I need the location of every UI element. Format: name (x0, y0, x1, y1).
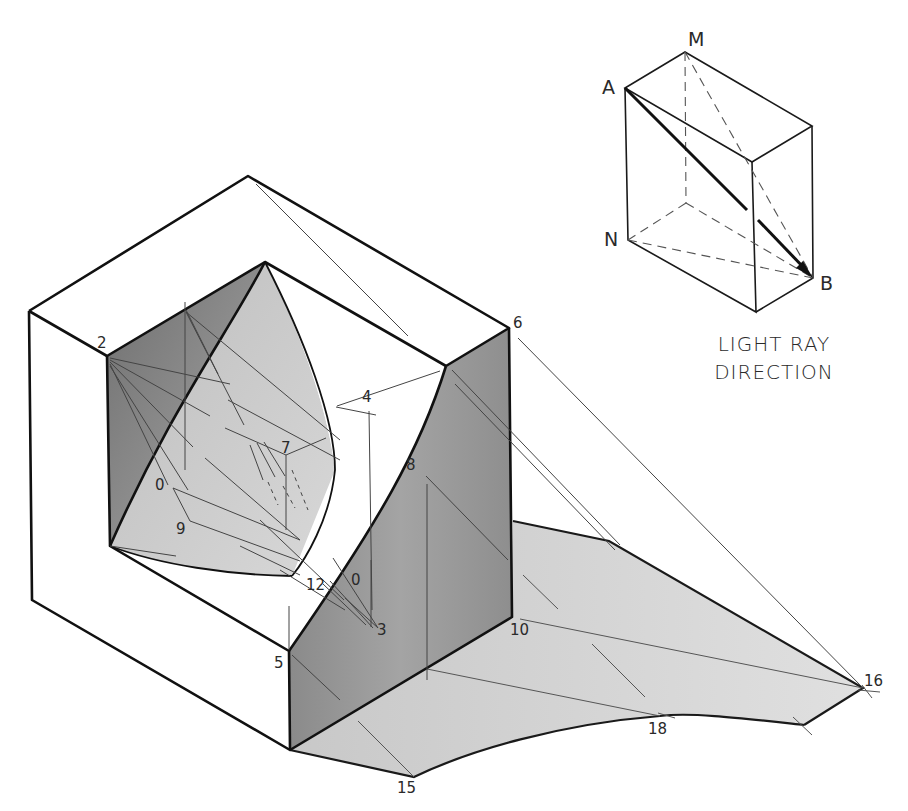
caption-line-1: LIGHT RAY (660, 330, 888, 358)
label-4: 4 (362, 388, 372, 406)
label-16: 16 (864, 672, 883, 690)
technical-drawing: 2 6 4 7 8 0 9 12 0 3 5 10 15 18 16 (0, 0, 908, 811)
light-ray-arrow (625, 88, 813, 278)
label-7: 7 (281, 439, 291, 457)
drawing-canvas: 2 6 4 7 8 0 9 12 0 3 5 10 15 18 16 (0, 0, 908, 811)
label-b: B (820, 272, 833, 294)
label-10: 10 (510, 621, 529, 639)
label-0-right: 0 (351, 571, 361, 589)
label-15: 15 (397, 779, 416, 797)
label-3: 3 (377, 621, 387, 639)
label-12: 12 (306, 576, 325, 594)
label-8: 8 (406, 456, 416, 474)
light-ray-box: A M N B (602, 28, 833, 312)
label-2: 2 (97, 334, 107, 352)
label-n: N (604, 228, 618, 250)
label-6: 6 (513, 314, 523, 332)
caption-line-2: DIRECTION (660, 358, 888, 386)
label-9: 9 (176, 520, 186, 538)
label-m: M (688, 28, 704, 50)
label-a: A (602, 76, 615, 98)
label-18: 18 (648, 720, 667, 738)
label-0-left: 0 (155, 476, 165, 494)
label-5: 5 (274, 654, 284, 672)
